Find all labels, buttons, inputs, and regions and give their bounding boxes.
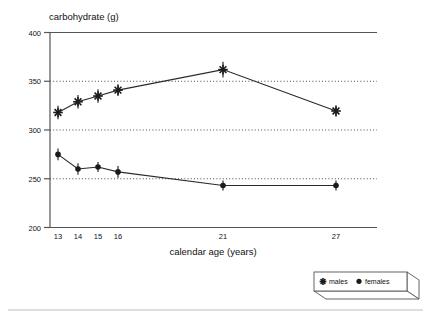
y-tick-label-300: 300 — [28, 126, 41, 135]
marker-star-males-16 — [113, 85, 123, 95]
chart-figure: 400 350 300 250 200 carbohydrate (g) 13 … — [0, 0, 431, 317]
chart-legend[interactable]: males females — [314, 272, 419, 299]
x-tick-label-14: 14 — [74, 232, 82, 241]
x-tick-label-15: 15 — [94, 232, 102, 241]
marker-star-males-14 — [73, 97, 83, 107]
series-males-errorbars — [58, 62, 336, 120]
marker-dot-females-15 — [95, 164, 101, 170]
x-tick-label-16: 16 — [114, 232, 122, 241]
y-tick-label-200: 200 — [28, 224, 41, 233]
marker-star-males-13 — [53, 108, 63, 118]
y-tick-label-250: 250 — [28, 175, 41, 184]
y-axis-tick-labels: 400 350 300 250 200 — [28, 29, 41, 233]
x-tick-label-21: 21 — [219, 232, 227, 241]
marker-dot-females-27 — [333, 183, 339, 189]
marker-star-males-27 — [331, 106, 341, 116]
x-tick-label-13: 13 — [54, 232, 62, 241]
series-females — [55, 149, 339, 191]
legend-marker-star-icon — [320, 278, 327, 285]
marker-dot-females-16 — [115, 169, 121, 175]
series-males-markers — [53, 65, 341, 118]
legend-label-males: males — [329, 278, 348, 285]
marker-dot-females-13 — [55, 152, 61, 158]
series-females-line — [58, 154, 336, 185]
chart-svg: 400 350 300 250 200 carbohydrate (g) 13 … — [0, 0, 431, 317]
marker-dot-females-14 — [75, 166, 81, 172]
y-axis-ticks — [44, 33, 50, 228]
legend-label-females: females — [365, 278, 390, 285]
y-tick-label-350: 350 — [28, 77, 41, 86]
legend-marker-dot-icon — [356, 279, 361, 284]
legend-box-bottom-face — [314, 291, 419, 299]
y-tick-label-400: 400 — [28, 29, 41, 38]
series-females-errorbars — [58, 149, 336, 191]
x-tick-label-27: 27 — [332, 232, 340, 241]
x-axis-tick-labels: 13 14 15 16 21 27 — [54, 232, 340, 241]
marker-dot-females-21 — [220, 183, 226, 189]
marker-star-males-21 — [218, 65, 228, 75]
x-axis-title: calendar age (years) — [169, 246, 256, 257]
y-axis-title: carbohydrate (g) — [49, 11, 119, 22]
marker-star-males-15 — [93, 91, 103, 101]
series-males-line — [58, 70, 336, 113]
series-males — [53, 62, 341, 120]
